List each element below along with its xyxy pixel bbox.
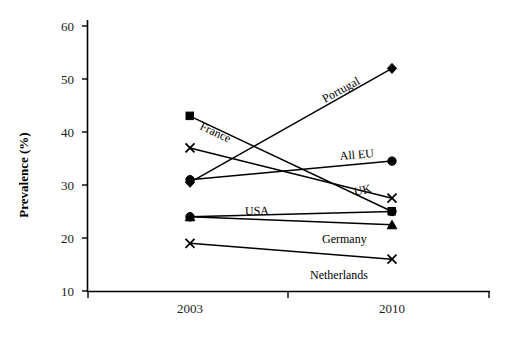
y-axis-title: Prevalence (%): [16, 132, 31, 217]
marker-all-eu-2010: [388, 157, 396, 165]
line-chart: 60 50 40 30 20 10 2003 2010 Prevalence (…: [0, 0, 509, 344]
x-tick-label-2003: 2003: [177, 301, 203, 316]
marker-uk-2010: [388, 194, 397, 203]
series-label-uk: UK: [352, 181, 373, 199]
marker-usa-2010: [388, 207, 396, 215]
marker-france-2003: [186, 112, 194, 120]
y-tick-label-30: 30: [61, 178, 74, 193]
series-label-netherlands: Netherlands: [310, 268, 368, 282]
x-tick-label-2010: 2010: [379, 301, 405, 316]
series-label-usa: USA: [245, 204, 270, 218]
series-line-germany: [190, 217, 392, 225]
marker-portugal-2010: [387, 63, 396, 73]
y-tick-label-10: 10: [61, 284, 74, 299]
series-label-all-eu: All EU: [339, 146, 375, 163]
y-tick-label-50: 50: [61, 72, 74, 87]
y-tick-label-40: 40: [61, 125, 74, 140]
chart-canvas: 60 50 40 30 20 10 2003 2010 Prevalence (…: [0, 0, 509, 344]
series-line-usa: [190, 212, 392, 217]
y-tick-label-20: 20: [61, 231, 74, 246]
series-label-france: France: [198, 119, 234, 145]
marker-all-eu-2003: [186, 176, 194, 184]
y-tick-label-60: 60: [61, 19, 74, 34]
marker-uk-2003: [186, 143, 195, 152]
series-label-portugal: Portugal: [320, 73, 363, 105]
series-label-germany: Germany: [322, 232, 367, 246]
